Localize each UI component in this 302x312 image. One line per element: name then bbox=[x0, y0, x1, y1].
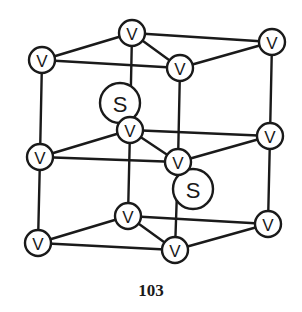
atom-label: V bbox=[169, 242, 181, 261]
bond-mid-right-mid-front bbox=[178, 136, 270, 162]
bond-top-front-top-left bbox=[42, 60, 180, 68]
vanadium-atom-mid-front: V bbox=[165, 149, 191, 175]
atom-label: V bbox=[174, 60, 186, 79]
vanadium-atom-bot-back: V bbox=[115, 203, 141, 229]
bond-top-right-top-front bbox=[180, 42, 272, 68]
bond-mid-front-mid-left bbox=[40, 157, 178, 162]
bond-mid-back-mid-right bbox=[130, 130, 270, 136]
atom-label: V bbox=[172, 154, 184, 173]
vanadium-atom-top-left: V bbox=[29, 47, 55, 73]
bond-bot-back-bot-right bbox=[128, 216, 268, 224]
sulfur-atoms: SS bbox=[100, 83, 213, 209]
atom-label: V bbox=[32, 235, 44, 254]
atom-label: S bbox=[113, 92, 128, 117]
page-number: 103 bbox=[0, 281, 302, 301]
lattice-diagram: SS VVVVVVVVVVVV bbox=[0, 0, 302, 280]
bond-top-left-mid-left bbox=[40, 60, 42, 157]
atom-label: V bbox=[126, 25, 138, 44]
atom-label: V bbox=[262, 216, 274, 235]
atom-label: V bbox=[264, 128, 276, 147]
bond-top-back-top-right bbox=[132, 33, 272, 42]
atom-label: V bbox=[36, 52, 48, 71]
bond-bot-front-bot-left bbox=[38, 243, 175, 250]
vanadium-atom-mid-back: V bbox=[117, 117, 143, 143]
vanadium-atom-bot-front: V bbox=[162, 237, 188, 263]
atom-label: V bbox=[266, 34, 278, 53]
atom-label: V bbox=[122, 208, 134, 227]
vanadium-atom-mid-right: V bbox=[257, 123, 283, 149]
vanadium-atom-top-right: V bbox=[259, 29, 285, 55]
vanadium-atom-top-back: V bbox=[119, 20, 145, 46]
vanadium-atom-bot-right: V bbox=[255, 211, 281, 237]
bond-bot-right-bot-front bbox=[175, 224, 268, 250]
vanadium-atom-bot-left: V bbox=[25, 230, 51, 256]
atom-label: V bbox=[124, 122, 136, 141]
vanadium-atoms: VVVVVVVVVVVV bbox=[25, 20, 285, 263]
vanadium-atom-top-front: V bbox=[167, 55, 193, 81]
lattice-edges bbox=[38, 33, 272, 250]
atom-label: S bbox=[186, 178, 201, 203]
vanadium-atom-mid-left: V bbox=[27, 144, 53, 170]
atom-label: V bbox=[34, 149, 46, 168]
